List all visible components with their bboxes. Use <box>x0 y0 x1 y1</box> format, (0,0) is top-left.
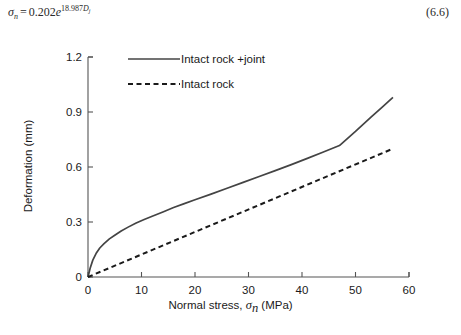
legend-item-label-intact-rock-joint: Intact rock +joint <box>181 53 265 65</box>
equation-formula: σn=0.202e18.987Dj <box>8 4 90 21</box>
y-tick-label-1: 0.3 <box>46 216 82 228</box>
y-tick-label-0: 0 <box>46 271 82 283</box>
x-tick-label-4: 40 <box>296 284 309 296</box>
x-tick-label-6: 60 <box>403 284 416 296</box>
series-group <box>88 97 393 277</box>
x-tick-label-0: 0 <box>85 284 91 296</box>
series-line-intact-rock-joint <box>88 97 393 277</box>
plot-canvas <box>0 30 461 335</box>
x-tick-label-5: 50 <box>349 284 362 296</box>
y-tick-label-4: 1.2 <box>46 51 82 63</box>
y-axis-title: Deformation (mm) <box>22 76 34 256</box>
x-axis-title: Normal stress, σn (MPa) <box>0 298 461 316</box>
equation-operator: = <box>18 5 29 19</box>
equation-row: σn=0.202e18.987Dj (6.6) <box>0 0 461 30</box>
figure-chart: Normal stress, σn (MPa) Deformation (mm)… <box>0 30 461 335</box>
series-line-intact-rock <box>88 149 393 277</box>
equation-exponent-coefficient: 18.987 <box>61 4 83 13</box>
y-tick-label-2: 0.6 <box>46 161 82 173</box>
x-tick-label-3: 30 <box>242 284 255 296</box>
legend-swatches <box>128 59 180 84</box>
equation-coefficient: 0.202 <box>29 5 56 19</box>
legend-item-label-intact-rock: Intact rock <box>181 78 234 90</box>
equation-exponent: 18.987Dj <box>61 4 90 13</box>
x-axis-title-suffix: (MPa) <box>258 299 293 311</box>
ticks-group <box>88 57 409 277</box>
x-tick-label-2: 20 <box>189 284 202 296</box>
y-tick-label-3: 0.9 <box>46 106 82 118</box>
x-tick-label-1: 10 <box>135 284 148 296</box>
equation-number: (6.6) <box>426 5 449 20</box>
equation-exponent-subscript: j <box>89 8 91 14</box>
axes-group <box>88 57 409 277</box>
x-axis-title-prefix: Normal stress, <box>168 299 245 311</box>
